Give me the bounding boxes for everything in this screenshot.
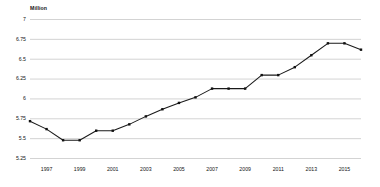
data-point-marker [145,115,147,117]
data-point-marker [244,87,246,89]
data-point-marker [194,96,196,98]
data-point-marker [29,120,31,122]
data-point-marker [227,87,229,89]
data-point-marker [78,139,80,141]
data-point-marker [343,42,345,44]
line-chart: Million 76.756.56.2565.755.55.25 1997199… [0,0,380,187]
data-point-marker [327,42,329,44]
data-point-marker [161,108,163,110]
data-point-marker [310,54,312,56]
data-point-marker [62,139,64,141]
data-point-marker [45,128,47,130]
chart-screenshot: Million 76.756.56.2565.755.55.25 1997199… [0,0,380,187]
data-point-marker [211,87,213,89]
data-point-marker [178,102,180,104]
series-line [30,43,361,140]
data-point-marker [277,74,279,76]
data-point-marker [261,74,263,76]
data-point-marker [294,66,296,68]
data-point-marker [112,130,114,132]
data-point-marker [128,123,130,125]
data-point-marker [95,130,97,132]
data-point-marker [360,48,362,50]
chart-plot-svg [0,0,380,187]
